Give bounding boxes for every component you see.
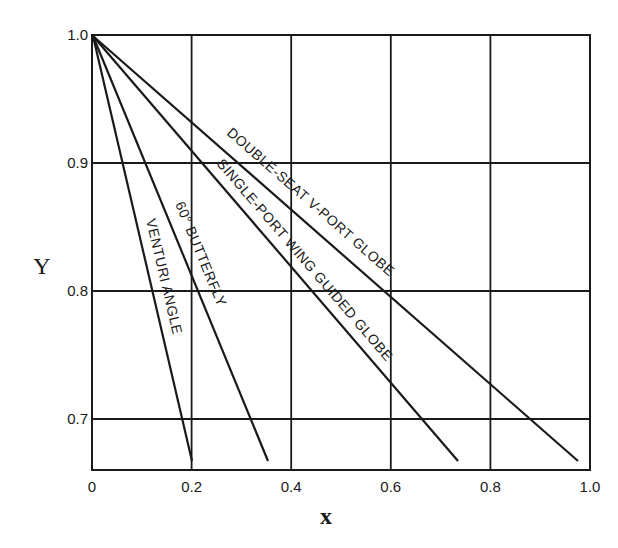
x-axis-title: x bbox=[320, 503, 332, 529]
x-tick-0.6: 0.6 bbox=[380, 478, 401, 495]
y-tick-1.0: 1.0 bbox=[67, 26, 88, 43]
chart: VENTURI ANGLE 60° BUTTERFLY SINGLE-PORT … bbox=[0, 0, 618, 548]
label-60-butterfly: 60° BUTTERFLY bbox=[172, 199, 230, 309]
x-tick-0.4: 0.4 bbox=[281, 478, 302, 495]
y-tick-0.7: 0.7 bbox=[67, 410, 88, 427]
y-tick-0.8: 0.8 bbox=[67, 282, 88, 299]
line-60-butterfly bbox=[93, 36, 268, 461]
x-tick-0.8: 0.8 bbox=[480, 478, 501, 495]
x-tick-1.0: 1.0 bbox=[580, 478, 601, 495]
x-tick-labels: 0 0.2 0.4 0.6 0.8 1.0 bbox=[88, 478, 601, 495]
y-tick-labels: 1.0 0.9 0.8 0.7 bbox=[67, 26, 88, 427]
line-single-port-wing-guided-globe bbox=[93, 36, 458, 461]
y-axis-title: Y bbox=[33, 253, 50, 279]
y-tick-0.9: 0.9 bbox=[67, 154, 88, 171]
x-tick-0.2: 0.2 bbox=[181, 478, 202, 495]
line-venturi-angle bbox=[93, 36, 192, 461]
x-tick-0: 0 bbox=[88, 478, 96, 495]
